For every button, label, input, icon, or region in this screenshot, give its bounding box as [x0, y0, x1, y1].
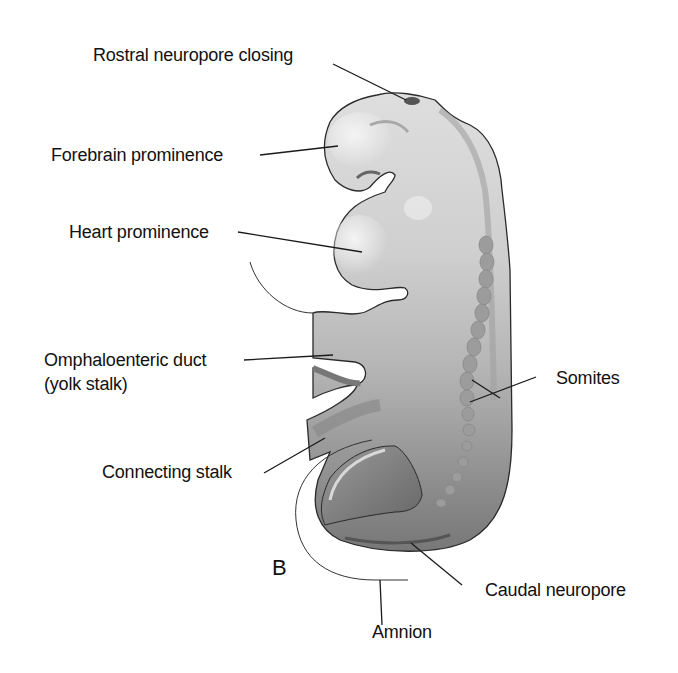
label-yolk-stalk: (yolk stalk) [44, 374, 128, 395]
embryo-illustration [0, 0, 678, 673]
label-caudal-neuropore: Caudal neuropore [485, 580, 626, 601]
rostral-neuropore [404, 97, 420, 105]
label-somites: Somites [556, 368, 620, 389]
label-rostral-neuropore: Rostral neuropore closing [93, 45, 293, 66]
heart-highlight [332, 215, 388, 275]
panel-letter: B [272, 555, 287, 581]
label-heart-prominence: Heart prominence [69, 222, 209, 243]
label-forebrain-prominence: Forebrain prominence [51, 145, 223, 166]
label-amnion: Amnion [372, 622, 432, 643]
embryo-diagram: Rostral neuropore closing Forebrain prom… [0, 0, 678, 673]
yolk-sac-membrane [250, 262, 313, 313]
label-omphaloenteric-duct: Omphaloenteric duct [44, 350, 206, 371]
label-connecting-stalk: Connecting stalk [102, 462, 232, 483]
